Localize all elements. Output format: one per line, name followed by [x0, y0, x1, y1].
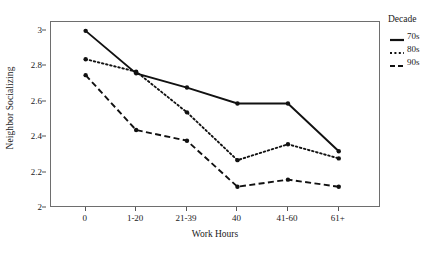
y-axis-tick-labels: 22.22.42.62.83: [16, 0, 46, 215]
legend-items: 70s80s90s: [388, 29, 436, 68]
data-point: [134, 128, 138, 132]
y-tick-label: 2.6: [31, 96, 42, 106]
x-axis-title: Work Hours: [50, 229, 380, 239]
x-tick-label: 61+: [331, 213, 345, 223]
y-axis-title-text: Neighbor Socializing: [4, 66, 14, 149]
legend-title: Decade: [388, 14, 436, 24]
data-point: [134, 69, 138, 73]
y-tick-mark: [42, 171, 46, 172]
y-tick-label: 2.4: [31, 131, 42, 141]
legend-item-70s[interactable]: 70s: [390, 29, 436, 42]
data-point: [185, 110, 189, 114]
legend-swatch-dashed-icon: [390, 57, 404, 67]
y-tick-mark: [42, 136, 46, 137]
y-tick-label: 2.8: [31, 60, 42, 70]
legend-item-80s[interactable]: 80s: [390, 42, 436, 55]
data-point: [286, 177, 290, 181]
x-tick-label: 1-20: [127, 213, 144, 223]
data-point: [235, 158, 239, 162]
y-tick-mark: [42, 29, 46, 30]
x-tick-label: 41-60: [276, 213, 297, 223]
data-point: [185, 85, 189, 89]
legend-swatch-dotted-icon: [390, 44, 404, 54]
y-tick-mark: [42, 100, 46, 101]
x-tick-mark: [287, 207, 288, 211]
x-axis-tick-labels: 01-2021-394041-6061+: [50, 207, 380, 229]
data-point: [337, 185, 341, 189]
legend-item-90s[interactable]: 90s: [390, 55, 436, 68]
data-point: [286, 142, 290, 146]
legend-label: 80s: [407, 44, 420, 54]
x-tick-mark: [135, 207, 136, 211]
legend-label: 90s: [407, 57, 420, 67]
legend: Decade 70s80s90s: [388, 14, 436, 68]
x-tick-mark: [236, 207, 237, 211]
x-tick-label: 40: [232, 213, 241, 223]
x-axis-title-text: Work Hours: [192, 229, 238, 239]
data-point: [185, 138, 189, 142]
x-tick-label: 21-39: [175, 213, 196, 223]
series-line-90s: [86, 75, 339, 187]
series-line-70s: [86, 31, 339, 151]
x-tick-mark: [186, 207, 187, 211]
data-point: [83, 29, 87, 33]
series-canvas: [51, 22, 381, 208]
legend-label: 70s: [407, 31, 420, 41]
x-tick-mark: [338, 207, 339, 211]
data-point: [83, 57, 87, 61]
data-point: [235, 185, 239, 189]
data-point: [337, 149, 341, 153]
legend-swatch-solid-icon: [390, 31, 404, 41]
data-point: [83, 73, 87, 77]
line-chart-figure: Neighbor Socializing 22.22.42.62.83 01-2…: [0, 0, 436, 259]
x-tick-mark: [85, 207, 86, 211]
x-tick-label: 0: [82, 213, 87, 223]
y-tick-mark: [42, 207, 46, 208]
data-point: [286, 101, 290, 105]
y-tick-label: 2.2: [31, 167, 42, 177]
data-point: [337, 156, 341, 160]
data-point: [235, 101, 239, 105]
y-tick-mark: [42, 65, 46, 66]
series-line-80s: [86, 59, 339, 160]
plot-area: [50, 21, 380, 207]
